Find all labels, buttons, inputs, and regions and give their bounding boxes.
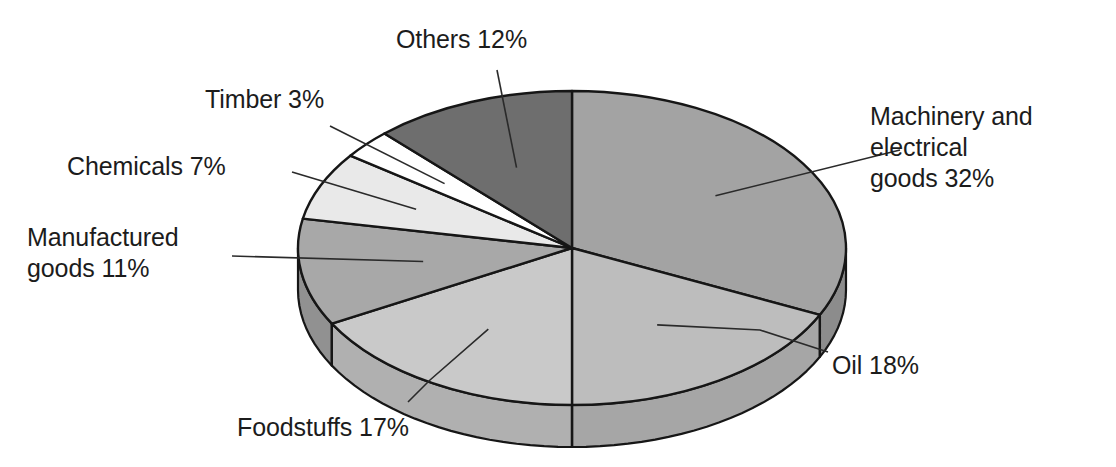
pie-top-slices [298, 91, 846, 405]
slice-label-manufactured-goods: Manufactured goods 11% [27, 222, 277, 284]
slice-label-chemicals: Chemicals 7% [67, 151, 317, 182]
slice-label-timber: Timber 3% [205, 84, 405, 115]
slice-label-foodstuffs: Foodstuffs 17% [237, 412, 547, 443]
slice-label-machinery-and-electrical-goods: Machinery and electrical goods 32% [870, 101, 1110, 194]
pie-chart-figure: Machinery and electrical goods 32% Oil 1… [0, 0, 1116, 467]
slice-label-oil: Oil 18% [832, 350, 1032, 381]
slice-label-others: Others 12% [396, 24, 616, 55]
